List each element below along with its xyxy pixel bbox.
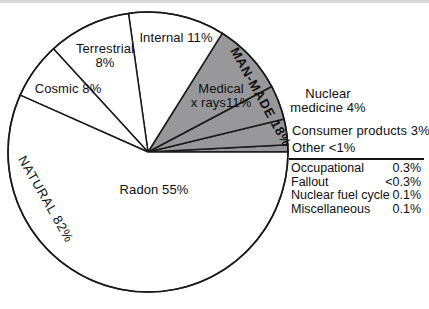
label-nuclear-line2: medicine 4% bbox=[290, 101, 366, 115]
breakdown-value: 0.1% bbox=[393, 203, 422, 217]
label-medical-line1: Medical bbox=[191, 82, 252, 96]
breakdown-label: Fallout bbox=[291, 176, 329, 190]
label-cosmic: Cosmic 8% bbox=[35, 82, 102, 96]
breakdown-row: Occupational0.3% bbox=[291, 162, 421, 176]
other-breakdown-table: Occupational0.3%Fallout<0.3%Nuclear fuel… bbox=[291, 162, 421, 216]
label-terrestrial: Terrestrial 8% bbox=[76, 42, 134, 70]
breakdown-row: Fallout<0.3% bbox=[291, 176, 421, 190]
breakdown-value: 0.3% bbox=[393, 162, 422, 176]
label-medical-x-rays: Medical x rays11% bbox=[191, 82, 252, 110]
other-breakdown-divider bbox=[289, 158, 424, 160]
label-internal: Internal 11% bbox=[139, 31, 212, 45]
breakdown-label: Nuclear fuel cycle bbox=[291, 189, 390, 203]
breakdown-row: Nuclear fuel cycle0.1% bbox=[291, 189, 421, 203]
breakdown-label: Miscellaneous bbox=[291, 203, 370, 217]
breakdown-row: Miscellaneous0.1% bbox=[291, 203, 421, 217]
breakdown-label: Occupational bbox=[291, 162, 364, 176]
label-other: Other <1% bbox=[292, 141, 355, 155]
radiation-sources-pie-figure: Internal 11% Terrestrial 8% Cosmic 8% Me… bbox=[0, 0, 429, 309]
label-nuclear-line1: Nuclear bbox=[290, 87, 366, 101]
label-terrestrial-line1: Terrestrial bbox=[76, 42, 134, 56]
label-medical-line2: x rays11% bbox=[191, 96, 252, 110]
label-nuclear-medicine: Nuclear medicine 4% bbox=[290, 87, 366, 115]
breakdown-value: 0.1% bbox=[393, 189, 422, 203]
label-radon: Radon 55% bbox=[120, 183, 189, 197]
pie-chart bbox=[0, 0, 429, 309]
breakdown-value: <0.3% bbox=[385, 176, 421, 190]
label-terrestrial-line2: 8% bbox=[76, 56, 134, 70]
label-consumer-products: Consumer products 3% bbox=[292, 124, 429, 138]
